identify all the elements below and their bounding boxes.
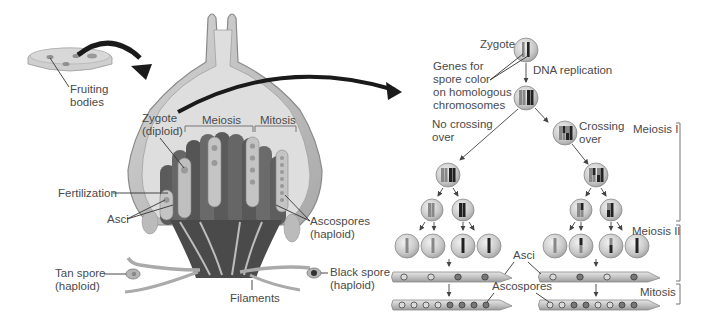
- stage-label-meiosis-1: Meiosis I: [633, 123, 678, 135]
- no-crossing-ascus-8: [392, 300, 513, 310]
- meiosis-label: Meiosis: [202, 114, 241, 126]
- zygote-label-right: Zygote: [480, 38, 515, 50]
- arrow-m2-a: [420, 222, 425, 230]
- no-crossing-label: No crossing over: [432, 118, 496, 143]
- tan-spore-nucleus: [132, 272, 136, 276]
- zygote-diploid-label: Zygote (diploid): [142, 112, 183, 137]
- fruiting-body-cross-section: [125, 14, 322, 292]
- no-crossing-dyad-1: [421, 199, 443, 221]
- stage-bracket-mitosis: [676, 284, 680, 304]
- crossing-meiosis1-cell: [584, 163, 608, 187]
- ascospores-label-right: Ascospores: [492, 280, 552, 292]
- arrow-m1-left-b: [453, 188, 458, 196]
- ascospores-haploid-label-left: Ascospores (haploid): [310, 215, 373, 240]
- stage-label-mitosis: Mitosis: [640, 286, 676, 298]
- asci-label-right: Asci: [513, 249, 535, 261]
- black-spore-nucleus: [311, 270, 317, 276]
- fertilization-label: Fertilization: [58, 187, 117, 199]
- crossing-over-cell: [553, 121, 577, 145]
- crossing-ascus-8: [539, 300, 661, 310]
- tan-spore-label: Tan spore (haploid): [55, 267, 109, 292]
- arrow-crossing: [535, 108, 548, 122]
- arrow-m1-right-a: [586, 188, 591, 196]
- arrow-m2-d: [469, 222, 474, 230]
- crossing-over-label: Crossing over: [579, 120, 628, 145]
- arrow-m2-e: [570, 222, 575, 230]
- arrow-m1-right-b: [601, 188, 606, 196]
- no-crossing-dyad-2: [452, 199, 474, 221]
- crossing-tetrad: [543, 234, 649, 258]
- fruiting-bodies-label: Fruiting bodies: [70, 83, 112, 108]
- dna-replication-label: DNA replication: [533, 64, 612, 76]
- neurospora-life-cycle-diagram: Fruiting bodies: [0, 0, 711, 321]
- asci-leader-right: [505, 262, 541, 274]
- filaments-label: Filaments: [230, 292, 280, 304]
- genes-label: Genes for spore color on homologous chro…: [433, 60, 515, 111]
- arrow-crossing-down: [572, 144, 588, 164]
- arrow-m1-left-a: [438, 188, 443, 196]
- crossing-dyad-1: [570, 199, 592, 221]
- stage-label-meiosis-2: Meiosis II: [632, 225, 681, 237]
- arrowhead-to-right-panel: [386, 82, 402, 100]
- replicated-zygote-cell: [514, 86, 538, 110]
- stage-bracket-meiosis-1: [676, 123, 680, 221]
- crossing-ascus-4: [539, 272, 661, 282]
- no-crossing-meiosis1-cell: [436, 163, 460, 187]
- arrowhead-dish-to-body: [131, 64, 152, 80]
- asci-label-left: Asci: [107, 213, 129, 225]
- no-crossing-tetrad: [395, 234, 501, 258]
- petri-dish: [28, 48, 112, 71]
- mitosis-label: Mitosis: [260, 114, 296, 126]
- arrow-m2-h: [617, 222, 622, 230]
- crossing-dyad-2: [600, 199, 622, 221]
- arrow-no-crossing: [460, 109, 518, 160]
- black-spore-label: Black spore (haploid): [330, 266, 393, 291]
